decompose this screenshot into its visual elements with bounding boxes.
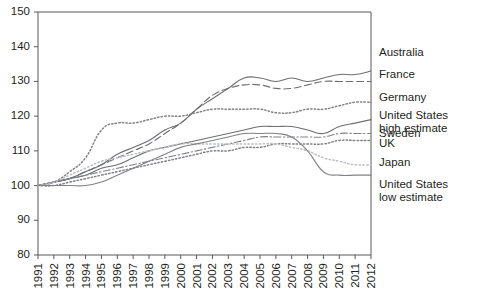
x-tick-label: 1998: [143, 263, 155, 289]
series-annotations: AustraliaFranceGermanyUnited Stateshigh …: [379, 46, 448, 203]
x-axis-group: 1991199219931994199519961997199819992000…: [32, 255, 377, 289]
y-tick-label: 110: [12, 144, 30, 156]
x-tick-label: 1997: [127, 263, 139, 289]
x-tick-label: 1995: [95, 263, 107, 289]
x-tick-label: 1991: [32, 263, 44, 289]
x-tick-label: 2011: [349, 263, 361, 288]
y-tick-label: 140: [11, 40, 30, 52]
chart-svg: 8090100110120130140150 19911992199319941…: [0, 0, 492, 307]
series-label: United States: [379, 178, 448, 190]
series-label: UK: [379, 137, 395, 149]
x-tick-label: 2007: [286, 263, 298, 289]
series-label: Australia: [379, 46, 424, 58]
series-label: France: [379, 68, 415, 80]
y-tick-label: 100: [11, 179, 30, 191]
x-tick-label: 1996: [111, 263, 123, 289]
x-tick-label: 2002: [206, 263, 218, 289]
series-label: low estimate: [379, 191, 443, 203]
series-label: United States: [379, 109, 448, 121]
x-tick-label: 2009: [317, 263, 329, 289]
y-tick-label: 80: [17, 248, 30, 260]
y-tick-marks: [34, 12, 38, 255]
series-lines: [38, 71, 371, 186]
y-tick-label: 150: [11, 5, 30, 17]
x-tick-label: 1992: [48, 263, 60, 289]
series-label: Germany: [379, 91, 427, 103]
x-tick-marks: [38, 255, 371, 259]
series-line: [38, 140, 371, 186]
x-tick-label: 2006: [270, 263, 282, 289]
x-tick-label: 2008: [302, 263, 314, 289]
x-tick-label: 2001: [191, 263, 203, 289]
y-tick-label: 130: [11, 74, 30, 86]
x-tick-label: 1999: [159, 263, 171, 289]
line-chart: 8090100110120130140150 19911992199319941…: [0, 0, 492, 307]
x-tick-label: 2004: [238, 262, 250, 288]
x-tick-label: 2012: [365, 263, 377, 289]
x-tick-label: 2003: [222, 263, 234, 289]
x-tick-labels: 1991199219931994199519961997199819992000…: [32, 262, 377, 288]
series-label: Japan: [379, 156, 410, 168]
x-tick-label: 2010: [333, 263, 345, 289]
x-tick-label: 2000: [175, 263, 187, 289]
y-tick-labels: 8090100110120130140150: [11, 5, 30, 260]
x-tick-label: 1993: [64, 263, 76, 289]
x-tick-label: 1994: [80, 262, 92, 288]
series-line: [38, 71, 371, 186]
x-tick-label: 2005: [254, 263, 266, 289]
y-tick-label: 120: [11, 109, 30, 121]
series-line: [38, 144, 371, 186]
y-tick-label: 90: [17, 213, 30, 225]
